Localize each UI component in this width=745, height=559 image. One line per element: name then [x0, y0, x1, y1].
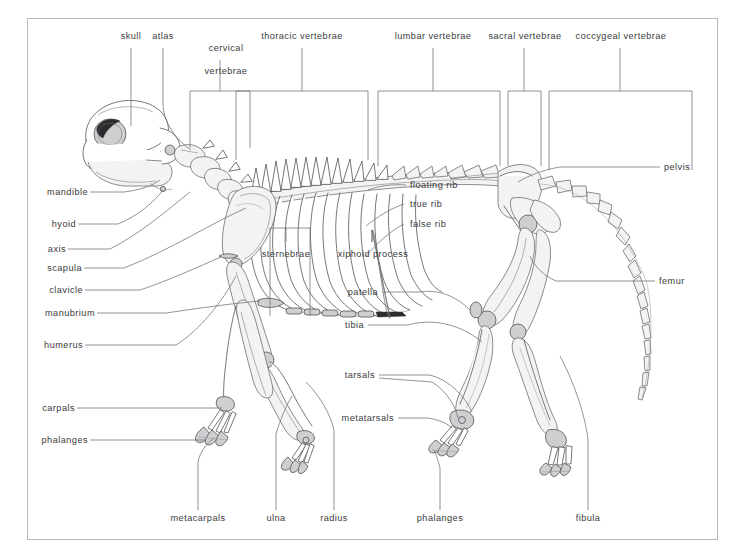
- label-patella: patella: [300, 287, 378, 299]
- leader-manubrium: [97, 301, 260, 313]
- label-false-rib: false rib: [410, 219, 446, 231]
- bracket-lumbar: [378, 91, 500, 166]
- leader-ulna: [276, 396, 292, 510]
- leader-floating-rib: [368, 185, 406, 190]
- label-true-rib: true rib: [410, 199, 442, 211]
- label-metatarsals: metatarsals: [300, 413, 394, 425]
- leader-phalanges-hind: [434, 450, 440, 510]
- label-floating-rib: floating rib: [410, 180, 458, 192]
- label-humerus: humerus: [0, 340, 83, 352]
- label-mandible: mandible: [0, 187, 88, 199]
- leader-humerus: [85, 276, 236, 345]
- label-tibia: tibia: [300, 320, 364, 332]
- leader-axis: [68, 192, 190, 249]
- leader-mandible: [90, 180, 160, 192]
- leader-radius: [306, 382, 334, 510]
- leader-scapula: [84, 208, 246, 268]
- bracket-coccygeal: [549, 91, 692, 170]
- leader-metatarsals: [398, 418, 452, 428]
- label-cervical-vertebrae: cervical vertebrae: [186, 31, 254, 89]
- label-xiphoid-process: xiphoid process: [330, 249, 416, 261]
- label-manubrium: manubrium: [0, 308, 95, 320]
- leader-clavicle: [85, 257, 221, 290]
- label-atlas: atlas: [143, 31, 183, 43]
- label-cervical-line2: vertebrae: [205, 66, 248, 76]
- label-thoracic-vertebrae: thoracic vertebrae: [246, 31, 358, 43]
- label-lumbar-vertebrae: lumbar vertebrae: [380, 31, 486, 43]
- leader-tarsals-2: [379, 378, 458, 418]
- label-tarsals: tarsals: [300, 370, 375, 382]
- label-pelvis: pelvis: [664, 162, 690, 174]
- label-ulna: ulna: [252, 513, 300, 525]
- label-axis: axis: [0, 244, 66, 256]
- leader-sternebrae: [270, 228, 310, 316]
- leader-true-rib: [366, 204, 404, 226]
- label-radius: radius: [306, 513, 362, 525]
- label-phalanges-hind: phalanges: [406, 513, 474, 525]
- label-hyoid: hyoid: [0, 219, 76, 231]
- bracket-cervical: [190, 91, 250, 148]
- leader-patella: [382, 291, 470, 310]
- leader-pelvis: [518, 167, 660, 182]
- leader-hyoid: [78, 190, 163, 224]
- leader-metacarpals: [198, 438, 214, 510]
- label-sternebrae: sternebrae: [248, 249, 324, 261]
- figure-canvas: skull atlas cervical vertebrae thoracic …: [0, 0, 745, 559]
- label-femur: femur: [659, 276, 685, 288]
- bracket-sacral: [508, 91, 541, 166]
- label-sacral-vertebrae: sacral vertebrae: [477, 31, 573, 43]
- label-phalanges-fore: phalanges: [0, 435, 88, 447]
- label-coccygeal-vertebrae: coccygeal vertebrae: [564, 31, 678, 43]
- label-clavicle: clavicle: [0, 285, 83, 297]
- bracket-thoracic: [236, 91, 368, 160]
- leader-fibula: [560, 356, 588, 510]
- leader-tarsals: [379, 375, 472, 412]
- leader-atlas-bend: [163, 104, 191, 150]
- label-cervical-line1: cervical: [209, 43, 244, 53]
- label-scapula: scapula: [0, 263, 82, 275]
- annotation-lines: [0, 0, 745, 559]
- label-carpals: carpals: [0, 403, 75, 415]
- leader-femur: [530, 256, 655, 281]
- label-metacarpals: metacarpals: [158, 513, 238, 525]
- label-fibula: fibula: [561, 513, 615, 525]
- leader-tibia: [368, 322, 482, 342]
